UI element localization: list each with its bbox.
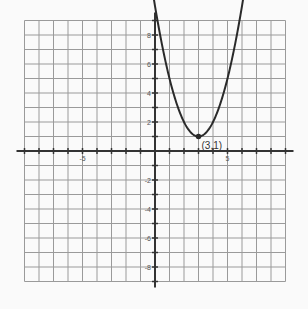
y-tick-label: -6 [145, 235, 151, 242]
axes [17, 13, 294, 288]
y-tick-label: 8 [147, 32, 151, 39]
y-tick-label: -8 [145, 264, 151, 271]
coordinate-plane: -558642-2-4-6-8 (3,1) [0, 0, 308, 309]
y-tick-label: 4 [147, 90, 151, 97]
x-tick-label: 5 [226, 155, 230, 162]
y-tick-label: -4 [145, 206, 151, 213]
y-tick-label: 6 [147, 61, 151, 68]
vertex-point [196, 134, 202, 140]
vertex-label: (3,1) [202, 140, 223, 151]
y-tick-label: -2 [145, 177, 151, 184]
y-tick-label: 2 [147, 119, 151, 126]
x-tick-label: -5 [79, 155, 85, 162]
